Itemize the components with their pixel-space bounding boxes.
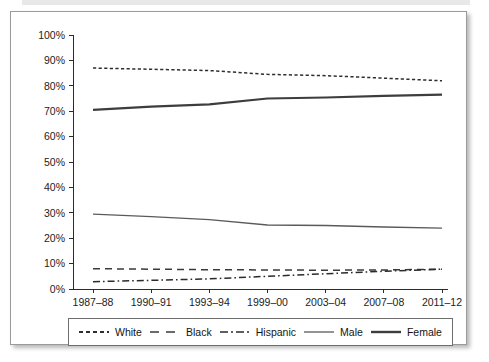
line-chart: 0%10%20%30%40%50%60%70%80%90%100%1987–88… [11, 12, 468, 312]
series-line-white [93, 68, 442, 81]
y-axis-tick-label: 70% [44, 105, 65, 117]
x-axis-tick-label: 2007–08 [363, 296, 404, 308]
legend-label: Hispanic [256, 326, 296, 338]
x-axis-tick-label: 1990–91 [131, 296, 172, 308]
y-axis-tick-label: 50% [44, 156, 65, 168]
legend-swatch-hispanic-icon [220, 327, 250, 337]
y-axis-tick-label: 60% [44, 130, 65, 142]
y-axis-tick-label: 90% [44, 54, 65, 66]
legend-label: Male [340, 326, 363, 338]
legend-swatch-female-icon [371, 327, 401, 337]
y-axis-tick-label: 0% [50, 283, 65, 295]
y-axis-tick-label: 40% [44, 181, 65, 193]
legend-label: Black [186, 326, 212, 338]
top-decorative-strip [22, 0, 470, 5]
chart-legend: WhiteBlackHispanicMaleFemale [68, 318, 453, 346]
x-axis-tick-label: 1987–88 [73, 296, 114, 308]
x-axis-tick-label: 1993–94 [189, 296, 230, 308]
legend-item-black[interactable]: Black [150, 326, 212, 338]
series-line-female [93, 95, 442, 110]
legend-swatch-male-icon [304, 327, 334, 337]
legend-item-female[interactable]: Female [371, 326, 442, 338]
series-line-hispanic [93, 269, 442, 281]
y-axis-tick-label: 20% [44, 232, 65, 244]
x-axis-tick-label: 2011–12 [422, 296, 462, 308]
legend-item-hispanic[interactable]: Hispanic [220, 326, 296, 338]
y-axis-tick-label: 10% [44, 257, 65, 269]
legend-label: White [115, 326, 142, 338]
y-axis-tick-label: 30% [44, 207, 65, 219]
x-axis-tick-label: 1999–00 [247, 296, 288, 308]
x-axis-tick-label: 2003–04 [305, 296, 346, 308]
y-axis-tick-label: 100% [38, 29, 65, 41]
y-axis-tick-label: 80% [44, 80, 65, 92]
series-line-male [93, 214, 442, 228]
legend-swatch-black-icon [150, 327, 180, 337]
page-root: 0%10%20%30%40%50%60%70%80%90%100%1987–88… [0, 0, 489, 362]
legend-item-white[interactable]: White [79, 326, 142, 338]
legend-swatch-white-icon [79, 327, 109, 337]
series-line-black [93, 269, 442, 271]
chart-figure-frame: 0%10%20%30%40%50%60%70%80%90%100%1987–88… [10, 11, 467, 345]
legend-label: Female [407, 326, 442, 338]
plot-area-wrapper: 0%10%20%30%40%50%60%70%80%90%100%1987–88… [11, 12, 468, 346]
legend-item-male[interactable]: Male [304, 326, 363, 338]
